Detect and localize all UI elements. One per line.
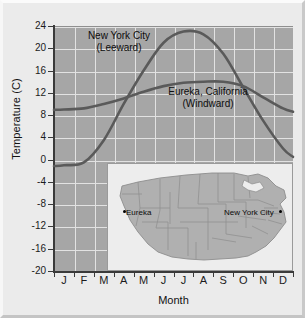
series-label-eureka-line2: (Windward): [153, 98, 263, 110]
x-axis-tick: [114, 272, 115, 277]
y-tick-label: -4: [37, 177, 46, 187]
x-axis-tick: [94, 272, 95, 277]
x-tick-label: J: [161, 275, 167, 286]
chart-figure: 24201612840-4-8-12-16-20 JFMAMJJASOND Te…: [0, 0, 305, 318]
x-tick-label: F: [81, 275, 88, 286]
y-tick-label: 16: [35, 66, 46, 76]
x-axis-tick: [233, 272, 234, 277]
series-label-eureka-line1: Eureka, California: [153, 86, 263, 98]
y-axis-tick: [48, 71, 54, 72]
y-axis-title: Temperature (C): [10, 59, 22, 179]
series-label-nyc-line2: (Leeward): [71, 42, 167, 54]
x-tick-label: J: [181, 275, 187, 286]
y-axis-tick: [48, 26, 54, 27]
y-tick-label: 20: [35, 43, 46, 53]
x-tick-label: M: [139, 275, 148, 286]
x-axis-tick: [154, 272, 155, 277]
y-axis-tick: [48, 48, 54, 49]
x-tick-label: O: [239, 275, 248, 286]
y-axis-tick: [48, 160, 54, 161]
x-axis-title: Month: [54, 294, 293, 306]
y-tick-label: -20: [32, 266, 46, 276]
y-tick-label: 8: [40, 110, 46, 120]
y-axis-tick: [48, 182, 54, 183]
x-tick-label: J: [61, 275, 67, 286]
x-tick-label: M: [99, 275, 108, 286]
y-axis-tick: [48, 204, 54, 205]
series-label-new-york-city: New York City (Leeward): [71, 30, 167, 54]
x-axis-tick: [193, 272, 194, 277]
inset-map-united-states: Eureka New York City: [107, 163, 293, 271]
y-tick-label: -8: [37, 199, 46, 209]
map-label-eureka: Eureka: [126, 209, 151, 217]
x-axis-tick: [54, 272, 55, 277]
y-tick-label: -12: [32, 221, 46, 231]
x-axis-tick: [253, 272, 254, 277]
us-map-outline-icon: [108, 164, 293, 271]
x-axis-tick: [134, 272, 135, 277]
series-label-nyc-line1: New York City: [71, 30, 167, 42]
series-label-eureka-california: Eureka, California (Windward): [153, 86, 263, 110]
map-label-new-york-city: New York City: [224, 209, 274, 217]
map-dot-new-york-city: [279, 210, 282, 213]
y-axis-tick: [48, 93, 54, 94]
y-axis-tick: [48, 226, 54, 227]
x-axis-tick: [74, 272, 75, 277]
y-axis-tick: [48, 115, 54, 116]
y-tick-label: 24: [35, 21, 46, 31]
x-tick-label: S: [220, 275, 227, 286]
x-tick-label: A: [200, 275, 207, 286]
y-tick-label: 4: [40, 132, 46, 142]
x-tick-label: A: [120, 275, 127, 286]
x-tick-label: N: [259, 275, 267, 286]
x-axis-tick: [273, 272, 274, 277]
x-axis-tick: [174, 272, 175, 277]
x-tick-label: D: [279, 275, 287, 286]
x-axis-tick: [293, 272, 294, 277]
y-axis-tick: [48, 249, 54, 250]
y-tick-label: 0: [40, 155, 46, 165]
y-tick-label: -16: [32, 244, 46, 254]
y-axis-tick: [48, 137, 54, 138]
y-tick-label: 12: [35, 88, 46, 98]
x-axis-tick: [213, 272, 214, 277]
